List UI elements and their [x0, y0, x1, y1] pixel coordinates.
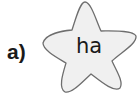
star-shape-icon: [0, 0, 139, 103]
star-text: ha: [76, 33, 102, 59]
